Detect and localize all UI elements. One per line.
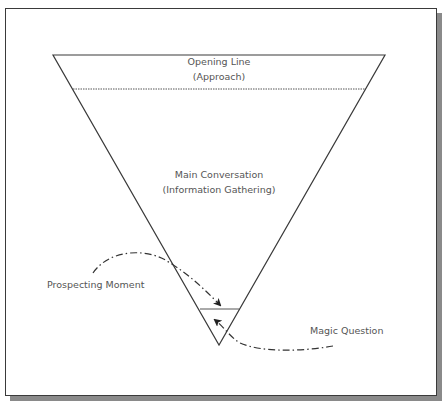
- main-conversation-label: Main Conversation: [175, 169, 264, 180]
- magic-question-label: Magic Question: [310, 325, 383, 336]
- opening-line-label: Opening Line: [188, 56, 251, 67]
- information-gathering-label: (Information Gathering): [163, 184, 276, 195]
- funnel-diagram: Opening Line (Approach) Main Conversatio…: [0, 0, 447, 407]
- approach-label: (Approach): [193, 71, 246, 82]
- funnel-triangle: [53, 55, 385, 345]
- prospecting-moment-label: Prospecting Moment: [47, 279, 145, 290]
